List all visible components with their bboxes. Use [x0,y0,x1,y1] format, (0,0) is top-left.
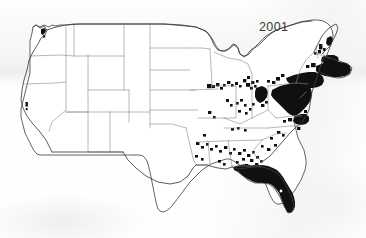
us-map [0,0,366,238]
map-figure: 2001 [0,0,366,238]
year-label: 2001 [259,20,288,34]
shaded-region-california [26,102,28,110]
